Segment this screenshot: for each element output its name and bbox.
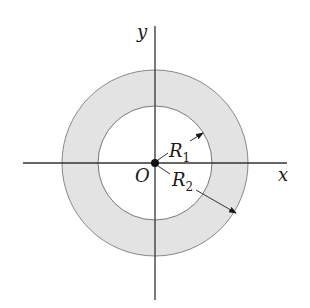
- r1-arrow: [190, 133, 203, 141]
- annulus-diagram: y x O R1 R2: [0, 0, 310, 308]
- origin-point: [151, 159, 159, 167]
- x-axis-label: x: [278, 164, 288, 185]
- r2-label: R2: [171, 169, 193, 194]
- r1-label: R1: [168, 140, 190, 165]
- y-axis-label: y: [136, 21, 148, 42]
- origin-label: O: [135, 165, 150, 186]
- r2-leader: [158, 166, 170, 174]
- r1-leader: [158, 153, 168, 160]
